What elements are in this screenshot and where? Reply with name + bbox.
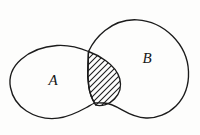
set-diagram-figure: A B bbox=[0, 0, 200, 135]
venn-diagram-canvas: A B bbox=[0, 0, 200, 135]
set-b-label: B bbox=[142, 50, 151, 66]
set-a-label: A bbox=[47, 72, 58, 88]
